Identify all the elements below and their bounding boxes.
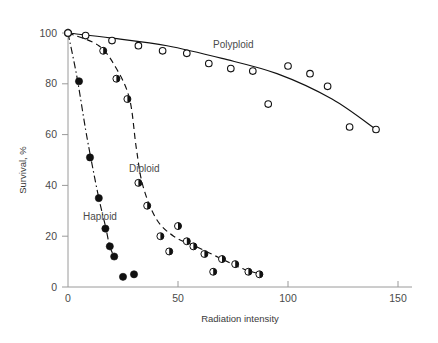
y-tick-label-0: 0 [51, 281, 57, 293]
data-point [346, 124, 353, 131]
x-tick-label-100: 100 [279, 292, 297, 304]
data-point [111, 253, 118, 260]
y-tick-label-100: 100 [39, 27, 57, 39]
data-point [119, 273, 126, 280]
x-axis-title: Radiation intensity [201, 313, 279, 324]
data-point [250, 68, 257, 75]
survival-radiation-chart: 020406080100 050100150 Survival, % Radia… [0, 0, 438, 343]
curve-haploid [68, 33, 114, 257]
y-tick-label-80: 80 [45, 77, 57, 89]
x-axis-ticks: 050100150 [65, 281, 407, 304]
data-point [86, 154, 93, 161]
series-markers [64, 29, 379, 280]
data-point [373, 126, 380, 133]
y-axis-ticks: 020406080100 [39, 27, 68, 293]
data-point [130, 271, 137, 278]
data-point [102, 225, 109, 232]
y-tick-label-60: 60 [45, 128, 57, 140]
data-point [159, 47, 166, 54]
chart-canvas: 020406080100 050100150 Survival, % Radia… [0, 0, 438, 343]
data-point [228, 65, 235, 72]
data-point [184, 50, 191, 57]
data-point [75, 78, 82, 85]
series-label-polyploid: Polyploid [213, 39, 254, 50]
data-point [324, 83, 331, 90]
data-point [307, 70, 314, 77]
x-tick-label-50: 50 [172, 292, 184, 304]
y-tick-label-40: 40 [45, 179, 57, 191]
y-tick-label-20: 20 [45, 230, 57, 242]
series-label-diploid: Diploid [129, 163, 160, 174]
x-tick-label-150: 150 [389, 292, 407, 304]
data-point [206, 60, 213, 67]
series-label-haploid: Haploid [83, 211, 117, 222]
data-point [65, 30, 72, 37]
series-curves [68, 33, 376, 274]
data-point [82, 32, 89, 39]
data-point [95, 195, 102, 202]
x-tick-label-0: 0 [65, 292, 71, 304]
data-point [106, 243, 113, 250]
data-point [109, 37, 116, 44]
data-point [285, 63, 292, 70]
y-axis-title: Survival, % [17, 146, 28, 194]
data-point [135, 42, 142, 49]
data-point [265, 101, 272, 108]
axes [68, 28, 412, 287]
